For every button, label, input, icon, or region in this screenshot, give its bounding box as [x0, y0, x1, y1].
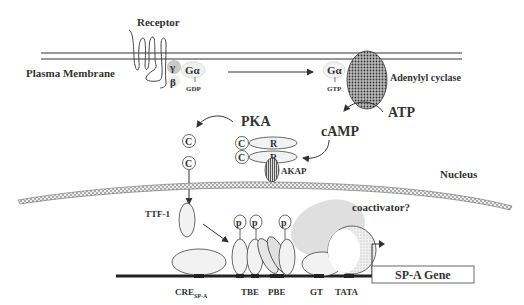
p-label: p: [252, 217, 258, 228]
coactivator-label: coactivator?: [352, 201, 410, 213]
pka-label: PKA: [241, 114, 271, 129]
p-label: p: [236, 217, 242, 228]
pka-holoenzyme: R R C C: [236, 137, 298, 164]
galpha-gtp-label: Gα: [327, 64, 343, 76]
gt-label: GT: [310, 287, 323, 297]
c-label: C: [185, 136, 192, 147]
beta-label: β: [170, 76, 176, 88]
gtp-label: GTP: [327, 85, 342, 93]
camp-label: cAMP: [321, 124, 360, 139]
g-alpha-active: Gα GTP: [323, 62, 345, 93]
phosphate-groups: p p p: [234, 215, 291, 239]
tata-binding-protein-icon: [328, 229, 360, 273]
gdp-label: GDP: [186, 85, 202, 93]
adenylyl-cyclase-icon: [347, 51, 387, 109]
plasma-membrane: [41, 53, 462, 59]
c-label: C: [238, 152, 245, 163]
c-label: C: [238, 138, 245, 149]
diagram-canvas: Receptor Plasma Membrane γ β Gα GDP Gα G…: [0, 0, 524, 305]
tata-label: TATA: [335, 287, 359, 297]
ttf1-binding-arrow: [203, 224, 228, 242]
receptor-label: Receptor: [137, 16, 180, 28]
atp-label: ATP: [388, 105, 415, 120]
akap-icon: [265, 158, 279, 182]
release-arrow: [197, 116, 233, 127]
cre-binding-protein-icon: [172, 249, 226, 275]
g-protein-inactive: γ β Gα GDP: [167, 60, 205, 93]
tbe-label: TBE: [241, 287, 259, 297]
ttf1-bound-icon: [279, 239, 295, 275]
arrowhead-icon: [379, 240, 385, 248]
pbe-label: PBE: [268, 287, 286, 297]
akap-label: AKAP: [281, 166, 307, 176]
galpha-gdp-label: Gα: [185, 64, 201, 76]
ttf1-bound-icon: [232, 239, 248, 275]
sp-a-gene-label: SP-A Gene: [395, 268, 451, 282]
ttf1-label: TTF-1: [145, 209, 171, 219]
nuclear-envelope: [18, 182, 512, 210]
camp-to-pka-arrow: [303, 140, 329, 158]
nucleus-label: Nucleus: [440, 168, 478, 180]
pathway-diagram: Receptor Plasma Membrane γ β Gα GDP Gα G…: [0, 0, 524, 305]
p-label: p: [281, 217, 287, 228]
c-label: C: [185, 158, 192, 169]
adenylyl-cyclase-label: Adenylyl cyclase: [390, 72, 461, 83]
plasma-membrane-label: Plasma Membrane: [26, 67, 115, 79]
r-label: R: [270, 138, 278, 149]
gamma-label: γ: [169, 61, 175, 73]
ttf1-icon: [179, 203, 195, 237]
cre-label: CRESP-A: [175, 287, 208, 299]
